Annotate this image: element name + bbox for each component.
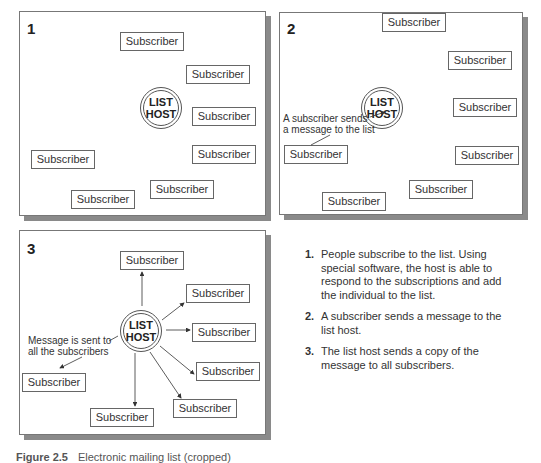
subscriber-box: Subscriber bbox=[120, 32, 184, 51]
figure-caption: Figure 2.5Electronic mailing list (cropp… bbox=[16, 451, 231, 463]
panel-number: 3 bbox=[27, 240, 35, 257]
subscriber-box: Subscriber bbox=[284, 145, 348, 164]
subscriber-box: Subscriber bbox=[192, 323, 256, 342]
broadcast-annotation: Message is sent toall the subscribers bbox=[28, 335, 111, 357]
host-label-line1: LIST bbox=[370, 96, 394, 108]
host-label-line2: HOST bbox=[146, 108, 177, 120]
subscriber-box: Subscriber bbox=[186, 65, 250, 84]
annotation-line1: A subscriber sends bbox=[283, 113, 368, 124]
step-item: 3.The list host sends a copy of the mess… bbox=[305, 345, 515, 372]
annotation-line2: all the subscribers bbox=[28, 346, 109, 357]
subscriber-box: Subscriber bbox=[192, 145, 256, 164]
send-annotation: A subscriber sendsa message to the list bbox=[283, 113, 375, 135]
host-label-line1: LIST bbox=[149, 96, 173, 108]
subscriber-box: Subscriber bbox=[409, 180, 473, 199]
subscriber-box: Subscriber bbox=[448, 51, 512, 70]
step-item: 1.People subscribe to the list. Using sp… bbox=[305, 248, 515, 302]
subscriber-box: Subscriber bbox=[382, 13, 446, 32]
step-item: 2.A subscriber sends a message to the li… bbox=[305, 310, 515, 337]
subscriber-box: Subscriber bbox=[322, 192, 386, 211]
list-host-node: LISTHOST bbox=[120, 310, 162, 352]
host-label-line2: HOST bbox=[126, 331, 157, 343]
annotation-line1: Message is sent to bbox=[28, 335, 111, 346]
subscriber-box: Subscriber bbox=[71, 190, 135, 209]
subscriber-box: Subscriber bbox=[455, 146, 519, 165]
subscriber-box: Subscriber bbox=[90, 408, 154, 427]
panel-number: 2 bbox=[287, 20, 295, 37]
subscriber-box: Subscriber bbox=[196, 362, 260, 381]
annotation-line2: a message to the list bbox=[283, 124, 375, 135]
subscriber-box: Subscriber bbox=[31, 150, 95, 169]
subscriber-box: Subscriber bbox=[186, 284, 250, 303]
panel-number: 1 bbox=[27, 20, 35, 37]
host-label-line1: LIST bbox=[129, 319, 153, 331]
subscriber-box: Subscriber bbox=[150, 180, 214, 199]
subscriber-box: Subscriber bbox=[173, 399, 237, 418]
subscriber-box: Subscriber bbox=[22, 373, 86, 392]
subscriber-box: Subscriber bbox=[120, 251, 184, 270]
list-host-node: LISTHOST bbox=[140, 87, 182, 129]
subscriber-box: Subscriber bbox=[453, 98, 517, 117]
subscriber-box: Subscriber bbox=[192, 107, 256, 126]
steps-list: 1.People subscribe to the list. Using sp… bbox=[305, 248, 515, 380]
